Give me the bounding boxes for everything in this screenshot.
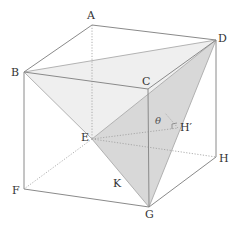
label-a: A — [86, 9, 96, 22]
cube-diagram: A B C D E F G H K H′ θ — [0, 0, 239, 232]
label-theta: θ — [155, 115, 161, 126]
label-e: E — [81, 131, 89, 144]
label-h-prime: H′ — [180, 121, 193, 134]
label-c: C — [142, 75, 150, 88]
label-g: G — [145, 208, 154, 221]
label-k: K — [113, 177, 122, 190]
label-h: H — [219, 152, 229, 165]
label-d: D — [218, 32, 227, 45]
label-b: B — [11, 66, 19, 79]
label-f: F — [12, 184, 20, 197]
